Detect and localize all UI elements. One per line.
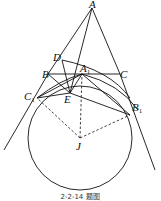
arc-A1-right [82,74,138,110]
label-C: C [120,68,128,80]
tangent-line-right [120,74,155,170]
label-A1: A1 [79,62,91,76]
segment-A1B1 [82,74,130,115]
label-D: D [52,51,61,63]
segment-EB1 [70,93,130,115]
label-C1: C1 [24,90,35,104]
dashed-JA1 [80,74,82,138]
tangent-line-left [4,74,48,150]
label-B1: B1 [132,101,143,115]
label-E: E [63,93,71,105]
dashed-JC1 [37,98,80,138]
label-A: A [88,0,96,10]
segment-AC [92,8,120,74]
label-J: J [76,140,82,152]
label-B: B [42,68,49,80]
dashed-JB1 [80,115,130,138]
geometry-diagram: A D B A1 C C1 E B1 J 2-2-14 题图 [0,0,161,201]
figure-caption: 2-2-14 题图 [60,193,99,201]
